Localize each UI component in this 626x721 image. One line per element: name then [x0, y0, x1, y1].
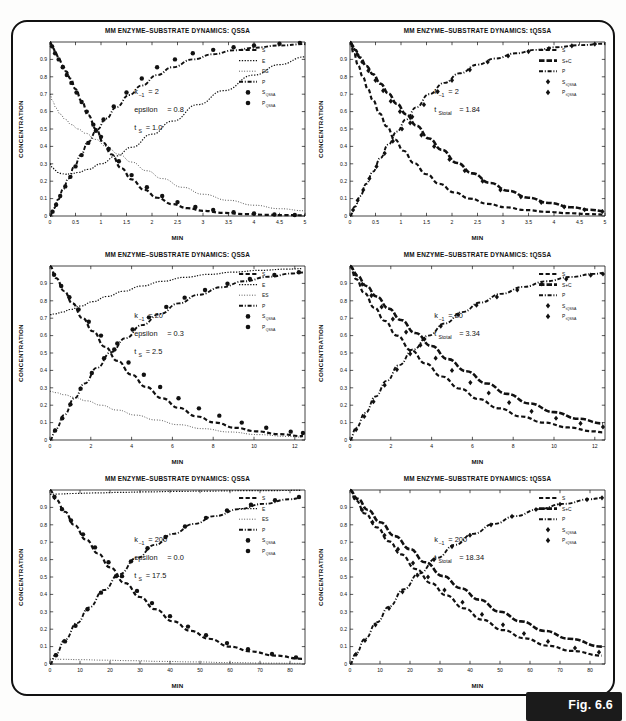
y-tick-label: 0.4	[340, 367, 347, 373]
x-tick-label: 60	[527, 667, 533, 673]
legend-entry-4: PtQSSA	[546, 538, 577, 546]
annotation-value: = 17.5	[146, 571, 167, 580]
annotation-value: = 0.0	[167, 553, 184, 562]
y-tick-label: 0	[44, 437, 47, 443]
annotation-0: k−1= 2	[134, 87, 159, 98]
legend-label: P	[562, 293, 565, 298]
annotation-symbol: t	[434, 553, 436, 562]
y-tick-label: 0.1	[40, 643, 47, 649]
y-tick-label: 0.2	[340, 626, 347, 632]
series-line-S	[50, 490, 302, 659]
x-tick-label: 12	[592, 443, 598, 449]
plot-frame	[350, 266, 605, 440]
y-axis-label: CONCENTRATION	[317, 324, 324, 382]
annotation-value: = 0.8	[167, 105, 184, 114]
legend-entry-2: P	[539, 293, 565, 298]
y-tick-label: 0.7	[40, 91, 47, 97]
x-axis-label: MIN	[471, 234, 483, 241]
x-tick-label: 0	[49, 443, 52, 449]
legend-entry-1: S+C	[539, 59, 572, 64]
y-tick-label: 0.3	[340, 609, 347, 615]
series-line-E	[50, 57, 305, 174]
x-tick-label: 30	[437, 667, 443, 673]
chart-panel-1: MM ENZYME–SUBSTRATE DYNAMICS: tQSSA00.51…	[313, 22, 613, 246]
y-tick-label: 0.6	[340, 108, 347, 114]
annotation-1: epsilon= 0.8	[134, 105, 184, 114]
annotation-value: = 0.3	[167, 329, 184, 338]
chart-panel-4: MM ENZYME–SUBSTRATE DYNAMICS: QSSA010203…	[13, 470, 313, 694]
legend-entry-0: S	[239, 496, 266, 501]
series-line-S	[350, 266, 603, 432]
annotation-subscript: −1	[438, 92, 444, 98]
y-tick-label: 0.9	[40, 280, 47, 286]
y-tick-label: 0.5	[40, 350, 47, 356]
legend-label: P	[262, 528, 265, 533]
chart-svg-panel-qssa-1: MM ENZYME–SUBSTRATE DYNAMICS: QSSA00.511…	[13, 22, 313, 246]
legend-entry-5: PQSSA	[246, 101, 276, 108]
annotation-subscript: −1	[138, 540, 144, 546]
legend-entry-2: ES	[239, 69, 269, 74]
x-tick-label: 70	[257, 667, 263, 673]
legend-label: P	[262, 80, 265, 85]
annotation-2: tS= 17.5	[134, 571, 166, 582]
legend-label-sub: QSSA	[266, 93, 276, 97]
x-tick-label: 8	[512, 443, 515, 449]
legend-entry-4: PtQSSA	[546, 314, 577, 322]
chart-svg-panel-tqssa-3: MM ENZYME–SUBSTRATE DYNAMICS: tQSSA01020…	[313, 470, 613, 694]
panel-title: MM ENZYME–SUBSTRATE DYNAMICS: QSSA	[105, 251, 250, 259]
y-tick-label: 0.6	[40, 332, 47, 338]
x-tick-label: 1	[400, 219, 403, 225]
series-markers-P_tQSSA	[351, 41, 597, 212]
x-tick-label: 1	[100, 219, 103, 225]
annotation-value: = 20	[148, 311, 163, 320]
panel-title: MM ENZYME–SUBSTRATE DYNAMICS: tQSSA	[404, 475, 552, 483]
annotation-value: = 1.84	[459, 105, 480, 114]
chart-panel-3: MM ENZYME–SUBSTRATE DYNAMICS: tQSSA02468…	[313, 246, 613, 470]
y-tick-label: 0.2	[340, 402, 347, 408]
x-tick-label: 0	[49, 219, 52, 225]
annotation-1: tStotal= 1.84	[434, 105, 480, 116]
y-tick-label: 0.9	[40, 56, 47, 62]
legend-label: S	[262, 496, 266, 501]
series-line-S+C	[350, 42, 605, 211]
legend-label: ES	[262, 517, 269, 522]
y-tick-label: 0.8	[340, 522, 347, 528]
annotation-subscript: S	[138, 576, 142, 582]
x-axis-label: MIN	[471, 682, 483, 689]
annotation-value: = 20	[448, 311, 463, 320]
plot-frame	[50, 42, 305, 216]
legend-label: E	[262, 59, 266, 64]
annotation-value: = 200	[448, 535, 467, 544]
y-tick-label: 0.7	[40, 315, 47, 321]
figure-number-badge: Fig. 6.6	[526, 692, 622, 721]
x-tick-label: 4	[253, 219, 256, 225]
annotation-value: = 18.34	[459, 553, 484, 562]
y-axis-label: CONCENTRATION	[317, 548, 324, 606]
y-tick-label: 0.7	[340, 91, 347, 97]
annotation-1: tStotal= 3.34	[434, 329, 480, 340]
series-line-S	[50, 42, 305, 215]
x-tick-label: 50	[197, 667, 203, 673]
annotation-1: epsilon= 0.3	[134, 329, 184, 338]
annotation-subscript: −1	[438, 316, 444, 322]
annotation-0: k−1= 20	[434, 311, 463, 322]
x-tick-label: 3	[202, 219, 205, 225]
series-markers-S_QSSA	[50, 44, 297, 217]
annotation-1: tStotal= 18.34	[434, 553, 484, 564]
annotation-symbol: epsilon	[134, 105, 157, 114]
legend-label-sub: QSSA	[266, 552, 276, 556]
y-tick-label: 0	[344, 437, 347, 443]
x-tick-label: 2	[89, 443, 92, 449]
series-line-S	[350, 42, 605, 215]
x-tick-label: 4.5	[276, 219, 283, 225]
y-tick-label: 0.4	[40, 591, 47, 597]
y-tick-label: 0.8	[40, 522, 47, 528]
y-tick-label: 0.6	[40, 108, 47, 114]
annotation-subscript: −1	[138, 316, 144, 322]
legend-label-sub: tQSSA	[566, 83, 577, 87]
y-tick-label: 0.1	[340, 195, 347, 201]
y-axis-label: CONCENTRATION	[317, 100, 324, 158]
panel-grid: MM ENZYME–SUBSTRATE DYNAMICS: QSSA00.511…	[13, 22, 613, 694]
y-tick-label: 0.6	[340, 556, 347, 562]
y-tick-label: 0.2	[40, 402, 47, 408]
